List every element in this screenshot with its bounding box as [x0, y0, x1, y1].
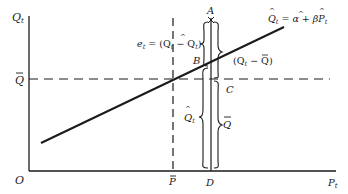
regression-diagram: Qt O Pt Q P A B C D Qt = α + βPt ^ ^ ^ e…	[0, 0, 348, 194]
residual-hat: ^	[180, 33, 186, 41]
point-b-label: B	[192, 55, 200, 66]
p-bar-label: P	[168, 176, 176, 187]
fitted-value-brace	[199, 68, 208, 168]
y-axis-label: Qt	[12, 11, 24, 25]
deviation-brace	[214, 22, 222, 78]
point-d-label: D	[205, 177, 214, 188]
mean-brace	[214, 81, 222, 168]
fitted-hat: ^	[185, 105, 191, 113]
equation-hat-beta: ^	[319, 7, 325, 15]
fitted-value-label: Qt	[184, 112, 195, 125]
residual-annotation: et = (Qt − Qt)	[137, 38, 202, 51]
q-bar-label: Q	[15, 74, 24, 87]
mean-label: Q	[223, 119, 231, 130]
equation-hat-alpha: ^	[298, 10, 304, 18]
equation-hat-q: ^	[269, 7, 275, 15]
origin-label: O	[15, 174, 24, 187]
x-axis-label: Pt	[327, 177, 338, 190]
point-a-label: A	[206, 5, 214, 16]
deviation-annotation: (Qt − Q)	[233, 55, 273, 68]
point-c-label: C	[226, 84, 234, 95]
